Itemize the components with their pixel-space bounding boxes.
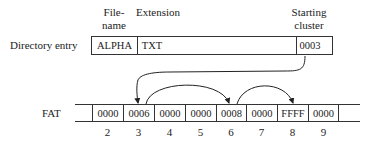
arrow-cluster-6-to-8 (237, 86, 293, 104)
arrow-cluster-3-to-6 (146, 85, 229, 104)
cluster-chain-arrows (0, 0, 372, 146)
arrow-start-to-cluster-3 (137, 56, 305, 103)
